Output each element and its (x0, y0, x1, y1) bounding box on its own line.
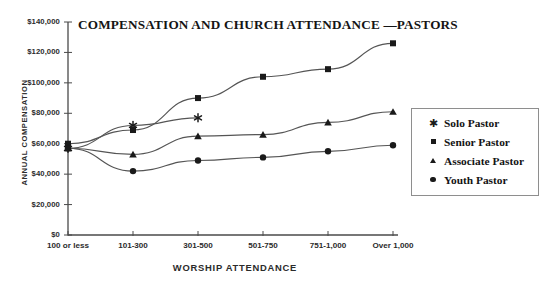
legend-label: Youth Pastor (444, 174, 508, 186)
chart-legend: ✱ Solo Pastor Senior Pastor Associate Pa… (411, 108, 539, 196)
data-point-marker (130, 168, 136, 174)
legend-label: Senior Pastor (444, 136, 510, 148)
circle-icon (428, 174, 438, 186)
legend-item-associate-pastor: Associate Pastor (428, 152, 524, 169)
data-point-marker (325, 148, 331, 154)
legend-item-senior-pastor: Senior Pastor (428, 133, 510, 150)
data-point-marker (260, 154, 266, 160)
legend-label: Solo Pastor (444, 117, 499, 129)
data-point-marker (130, 127, 136, 133)
data-point-marker (65, 145, 71, 151)
triangle-icon (428, 155, 438, 167)
star-icon: ✱ (428, 117, 438, 129)
data-point-marker (390, 40, 396, 46)
series-line (68, 43, 393, 143)
data-point-marker (260, 74, 266, 80)
legend-item-youth-pastor: Youth Pastor (428, 171, 508, 188)
legend-item-solo-pastor: ✱ Solo Pastor (428, 114, 499, 131)
data-point-marker (195, 157, 201, 163)
data-point-marker (195, 95, 201, 101)
legend-label: Associate Pastor (444, 155, 524, 167)
series-line (68, 112, 393, 155)
series-line (68, 145, 393, 171)
chart-figure: COMPENSATION AND CHURCH ATTENDANCE —PAST… (0, 0, 551, 282)
square-icon (428, 136, 438, 148)
data-point-marker (390, 142, 396, 148)
data-point-marker (325, 66, 331, 72)
